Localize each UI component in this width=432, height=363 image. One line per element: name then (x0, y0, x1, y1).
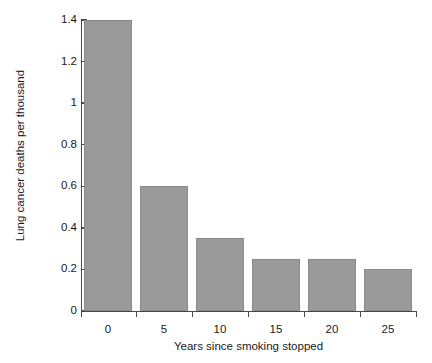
x-tick-label: 25 (360, 323, 416, 335)
y-tick-label: 0.6 (43, 180, 77, 192)
x-tick-mark (416, 311, 417, 317)
x-tick-mark (136, 311, 137, 317)
y-tick-label: 0 (43, 305, 77, 317)
x-axis-title: Years since smoking stopped (81, 340, 416, 352)
x-tick-label: 10 (192, 323, 248, 335)
x-tick-label: 15 (248, 323, 304, 335)
plot-area: 00.20.40.60.811.21.4 0510152025 (81, 20, 416, 311)
y-tick-label: 1.2 (43, 56, 77, 68)
bar (252, 259, 300, 311)
y-axis-title: Lung cancer deaths per thousand (10, 0, 30, 311)
x-tick-label: 20 (304, 323, 360, 335)
bar (140, 186, 188, 311)
bar (308, 259, 356, 311)
y-tick-label: 1.4 (43, 14, 77, 26)
y-tick-label: 0.8 (43, 139, 77, 151)
bar (196, 238, 244, 311)
x-tick-mark (192, 311, 193, 317)
x-tick-label: 0 (80, 323, 136, 335)
x-tick-mark (81, 311, 82, 317)
x-tick-label: 5 (136, 323, 192, 335)
bar (84, 20, 132, 311)
chart-figure: Lung cancer deaths per thousand 00.20.40… (0, 0, 432, 363)
y-tick-label: 0.2 (43, 263, 77, 275)
bar (364, 269, 412, 311)
x-tick-mark (360, 311, 361, 317)
x-tick-mark (248, 311, 249, 317)
x-tick-mark (304, 311, 305, 317)
y-tick-label: 0.4 (43, 222, 77, 234)
y-tick-label: 1 (43, 97, 77, 109)
